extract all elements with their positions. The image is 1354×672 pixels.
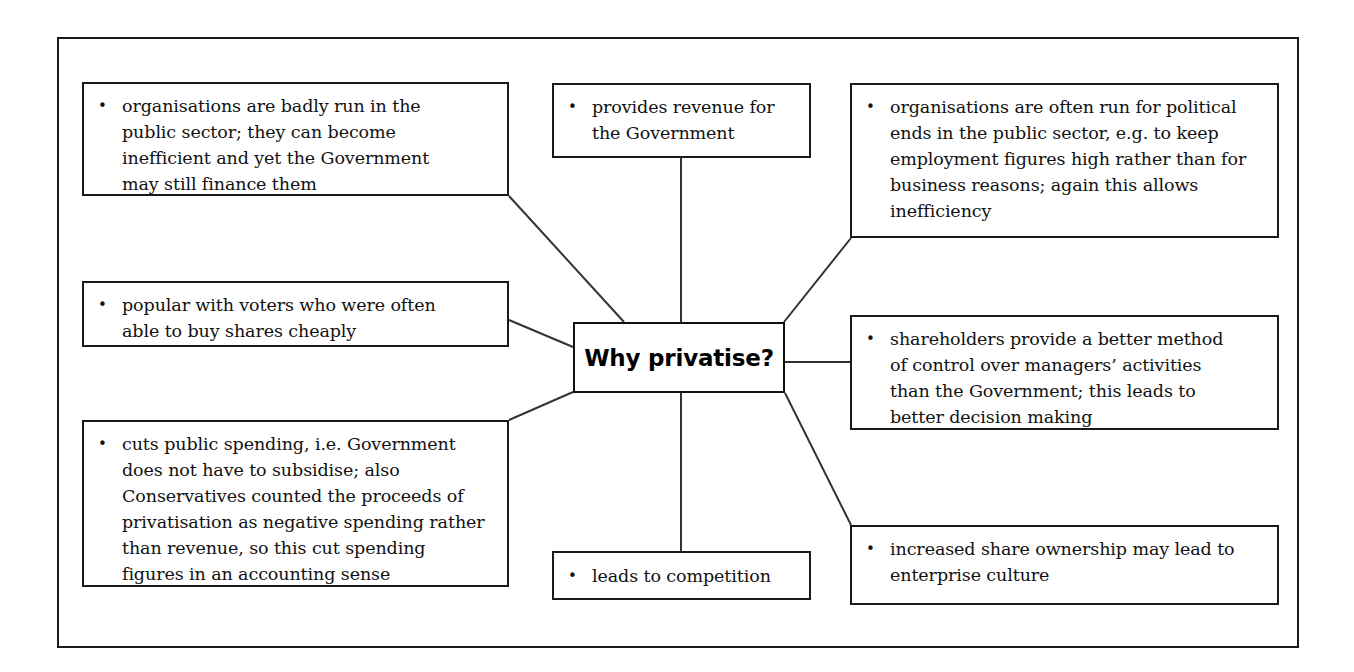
node-text: increased share ownership may lead to en…	[890, 536, 1267, 588]
node-text: provides revenue for the Government	[592, 94, 799, 146]
bullet-icon: •	[864, 94, 890, 120]
node-popular-voters[interactable]: • popular with voters who were often abl…	[82, 281, 509, 347]
node-text: leads to competition	[592, 563, 799, 589]
diagram-canvas: • organisations are badly run in the pub…	[0, 0, 1354, 672]
bullet-icon: •	[96, 292, 122, 318]
node-shareholders-control[interactable]: • shareholders provide a better method o…	[850, 315, 1279, 430]
node-cuts-public-spending[interactable]: • cuts public spending, i.e. Government …	[82, 420, 509, 587]
node-share-ownership[interactable]: • increased share ownership may lead to …	[850, 525, 1279, 605]
node-text: organisations are often run for politica…	[890, 94, 1267, 224]
node-leads-to-competition[interactable]: • leads to competition	[552, 551, 811, 600]
bullet-icon: •	[96, 431, 122, 457]
node-text: cuts public spending, i.e. Government do…	[122, 431, 497, 587]
node-badly-run[interactable]: • organisations are badly run in the pub…	[82, 82, 509, 196]
bullet-icon: •	[864, 536, 890, 562]
bullet-icon: •	[96, 93, 122, 119]
node-text: shareholders provide a better method of …	[890, 326, 1267, 430]
center-label: Why privatise?	[584, 345, 774, 371]
node-political-ends[interactable]: • organisations are often run for politi…	[850, 83, 1279, 238]
bullet-icon: •	[566, 563, 592, 589]
bullet-icon: •	[864, 326, 890, 352]
node-provides-revenue[interactable]: • provides revenue for the Government	[552, 83, 811, 158]
bullet-icon: •	[566, 94, 592, 120]
node-text: organisations are badly run in the publi…	[122, 93, 497, 197]
node-text: popular with voters who were often able …	[122, 292, 497, 344]
node-center-why-privatise[interactable]: Why privatise?	[573, 322, 785, 393]
